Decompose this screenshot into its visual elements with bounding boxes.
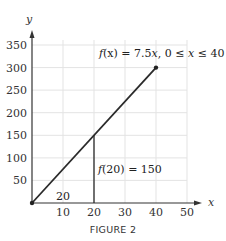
- endpoint-40-300: [154, 65, 158, 69]
- svg-text:50: 50: [180, 206, 194, 219]
- svg-text:250: 250: [6, 84, 27, 97]
- x-axis-arrow-icon: [194, 201, 202, 206]
- function-label: f(x) = 7.5x, 0 ≤ x ≤ 40: [98, 47, 224, 60]
- svg-text:50: 50: [13, 174, 27, 187]
- svg-text:20: 20: [87, 206, 101, 219]
- svg-text:30: 30: [118, 206, 132, 219]
- svg-text:100: 100: [6, 152, 27, 165]
- svg-text:300: 300: [6, 62, 27, 75]
- y-axis-label: y: [25, 13, 33, 26]
- y-tick-labels: 350 300 250 200 150 100 50: [6, 39, 27, 187]
- svg-text:350: 350: [6, 39, 27, 52]
- chart: y x 350 300 250 200 150 100 50 10 20 30 …: [0, 0, 226, 241]
- figure-caption: FIGURE 2: [90, 224, 137, 235]
- value-label: f(20) = 150: [97, 163, 162, 176]
- svg-text:150: 150: [6, 129, 27, 142]
- origin-point: [30, 201, 34, 205]
- x-axis-label: x: [208, 196, 215, 209]
- svg-text:200: 200: [6, 107, 27, 120]
- x-tick-labels: 10 20 30 40 50: [56, 206, 194, 219]
- base-label: 20: [56, 190, 70, 203]
- svg-text:10: 10: [56, 206, 70, 219]
- svg-text:40: 40: [149, 206, 163, 219]
- y-axis-arrow-icon: [30, 30, 35, 38]
